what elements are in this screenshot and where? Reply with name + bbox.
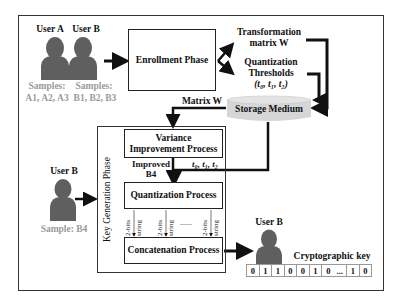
bit-string-label-2a: 2-bits bbox=[157, 211, 164, 236]
user-a-samples-label: Samples: bbox=[24, 81, 70, 92]
key-bit: 0 bbox=[284, 264, 298, 277]
key-bit: 1 bbox=[259, 264, 273, 277]
user-b-icon bbox=[68, 36, 98, 80]
storage-medium-label: Storage Medium bbox=[226, 104, 312, 115]
matrix-w-label: Matrix W bbox=[180, 96, 224, 107]
bit-string-ellipsis: ...... bbox=[180, 218, 192, 227]
key-bit: 0 bbox=[246, 264, 260, 277]
key-bit: 1 bbox=[309, 264, 323, 277]
user-a-icon bbox=[40, 36, 70, 80]
thresholds-t-label: t₀, t₁, t₂ bbox=[187, 159, 223, 169]
transformation-matrix-label: Transformation matrix W bbox=[232, 27, 306, 49]
user-b-keygen-icon bbox=[49, 178, 77, 221]
key-generation-phase-label: Key Generation Phase bbox=[101, 130, 113, 270]
user-b-label: User B bbox=[69, 24, 103, 35]
key-bit: 0 bbox=[359, 264, 373, 277]
user-b-output-icon bbox=[255, 229, 283, 265]
user-b-keygen-sample: Sample: B4 bbox=[36, 224, 92, 235]
bit-string-label-1b: string bbox=[136, 211, 143, 236]
improved-b4-label: Improved B4 bbox=[131, 159, 171, 180]
bit-string-label-2b: string bbox=[168, 211, 175, 236]
key-bit: 0 bbox=[321, 264, 335, 277]
key-bit: 1 bbox=[346, 264, 360, 277]
bit-string-label-1a: 2-bits bbox=[125, 211, 132, 236]
enrollment-phase-box: Enrollment Phase bbox=[128, 29, 216, 91]
user-b-keygen-label: User B bbox=[48, 166, 80, 177]
bit-string-label-3a: 2-bits bbox=[202, 211, 209, 236]
user-a-samples: A1, A2, A3 bbox=[22, 93, 72, 104]
user-b-output-label: User B bbox=[252, 217, 286, 228]
cryptographic-key-bits: 0 1 1 0 0 1 0 ... 1 0 bbox=[247, 264, 372, 277]
cryptographic-key-label: Cryptographic key bbox=[292, 251, 372, 262]
variance-improvement-box: Variance Improvement Process bbox=[124, 129, 223, 158]
key-bit-ellipsis: ... bbox=[334, 264, 348, 277]
enrollment-phase-label: Enrollment Phase bbox=[136, 55, 208, 66]
quantization-thresholds-label: Quantization Thresholds (t₀, t₁, t₂) bbox=[236, 57, 306, 90]
user-b-samples: B1, B2, B3 bbox=[70, 93, 120, 104]
key-bit: 0 bbox=[296, 264, 310, 277]
user-b-samples-label: Samples: bbox=[71, 81, 117, 92]
key-bit: 1 bbox=[271, 264, 285, 277]
concatenation-process-box: Concatenation Process bbox=[124, 237, 223, 264]
quantization-process-box: Quantization Process bbox=[124, 182, 223, 209]
bit-string-label-3b: string bbox=[213, 211, 220, 236]
user-a-label: User A bbox=[36, 24, 64, 35]
